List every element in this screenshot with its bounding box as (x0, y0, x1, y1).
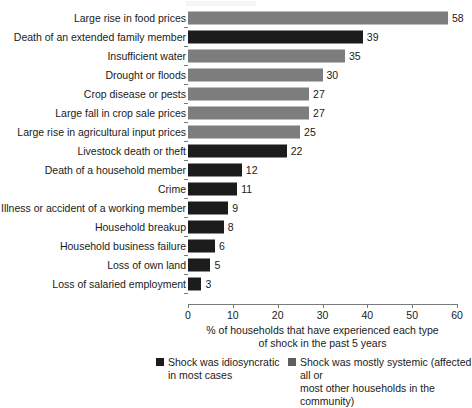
cropped-title-artifact (186, 1, 256, 6)
bar-track: 22 (188, 144, 457, 157)
bar-systemic[interactable] (188, 11, 448, 24)
bar-value-label: 30 (327, 69, 339, 81)
bar-track: 25 (188, 125, 457, 138)
bar-row: Household breakup8 (0, 217, 472, 236)
bar-value-label: 27 (313, 107, 325, 119)
x-axis-tick (412, 304, 413, 308)
category-label: Crop disease or pests (84, 88, 186, 100)
bar-row: Death of a household member12 (0, 160, 472, 179)
bar-idiosyncratic[interactable] (188, 220, 224, 233)
category-label: Large fall in crop sale prices (55, 107, 186, 119)
bar-idiosyncratic[interactable] (188, 30, 363, 43)
bar-track: 9 (188, 201, 457, 214)
bar-idiosyncratic[interactable] (188, 144, 287, 157)
plot-area: Large rise in food prices58Death of an e… (0, 8, 472, 304)
x-axis-tick-label: 60 (451, 309, 463, 321)
bar-value-label: 35 (349, 50, 361, 62)
bar-value-label: 9 (232, 202, 238, 214)
x-axis-tick (457, 304, 458, 308)
x-axis-tick (323, 304, 324, 308)
bar-track: 6 (188, 239, 457, 252)
category-label: Loss of own land (107, 259, 186, 271)
category-label: Large rise in agricultural input prices (17, 126, 186, 138)
legend-label-idiosyncratic: Shock was idiosyncratic in most cases (168, 356, 279, 382)
legend-item-idiosyncratic[interactable]: Shock was idiosyncratic in most cases (156, 356, 279, 382)
bar-row: Loss of own land5 (0, 255, 472, 274)
bar-track: 11 (188, 182, 457, 195)
bar-systemic[interactable] (188, 49, 345, 62)
bar-systemic[interactable] (188, 125, 300, 138)
bar-value-label: 3 (205, 278, 211, 290)
category-label: Crime (158, 183, 186, 195)
bar-systemic[interactable] (188, 68, 323, 81)
bar-value-label: 58 (452, 12, 464, 24)
x-axis-title-line-1: % of households that have experienced ea… (206, 324, 438, 336)
legend: Shock was idiosyncratic in most cases Sh… (0, 356, 472, 384)
x-axis-tick-label: 40 (361, 309, 373, 321)
bar-idiosyncratic[interactable] (188, 182, 237, 195)
category-label: Household breakup (95, 221, 186, 233)
x-axis-tick-label: 30 (317, 309, 329, 321)
bar-track: 8 (188, 220, 457, 233)
category-tick (184, 293, 188, 294)
bar-row: Livestock death or theft22 (0, 141, 472, 160)
bar-track: 5 (188, 258, 457, 271)
bar-value-label: 11 (241, 183, 252, 195)
bar-row: Crime11 (0, 179, 472, 198)
x-axis-tick-label: 10 (227, 309, 239, 321)
bar-value-label: 12 (246, 164, 258, 176)
bar-row: Illness or accident of a working member9 (0, 198, 472, 217)
legend-swatch-icon-idiosyncratic (156, 358, 164, 366)
category-label: Illness or accident of a working member (1, 202, 186, 214)
bar-row: Large fall in crop sale prices27 (0, 103, 472, 122)
x-axis-title: % of households that have experienced ea… (188, 324, 457, 350)
bar-idiosyncratic[interactable] (188, 163, 242, 176)
category-label: Livestock death or theft (77, 145, 186, 157)
bar-row: Death of an extended family member39 (0, 27, 472, 46)
x-axis-tick-label: 50 (406, 309, 418, 321)
category-label: Insufficient water (107, 50, 186, 62)
legend-label-systemic: Shock was mostly systemic (affected all … (300, 356, 472, 408)
legend-swatch-icon-systemic (288, 358, 296, 366)
bar-value-label: 6 (219, 240, 225, 252)
category-label: Loss of salaried employment (52, 278, 186, 290)
bar-row: Crop disease or pests27 (0, 84, 472, 103)
bar-value-label: 25 (304, 126, 316, 138)
bar-track: 27 (188, 87, 457, 100)
bar-value-label: 39 (367, 31, 379, 43)
bar-track: 58 (188, 11, 457, 24)
x-axis-tick (278, 304, 279, 308)
category-label: Household business failure (60, 240, 186, 252)
bar-row: Large rise in agricultural input prices2… (0, 122, 472, 141)
legend-item-systemic[interactable]: Shock was mostly systemic (affected all … (288, 356, 472, 408)
bar-value-label: 27 (313, 88, 325, 100)
bar-track: 3 (188, 277, 457, 290)
x-axis-title-line-2: of shock in the past 5 years (259, 337, 387, 349)
category-label: Death of an extended family member (14, 31, 186, 43)
category-label: Drought or floods (105, 69, 186, 81)
bar-track: 39 (188, 30, 457, 43)
x-axis-tick (188, 304, 189, 308)
bar-row: Drought or floods30 (0, 65, 472, 84)
x-axis-tick (233, 304, 234, 308)
bar-idiosyncratic[interactable] (188, 201, 228, 214)
bar-systemic[interactable] (188, 87, 309, 100)
bar-row: Insufficient water35 (0, 46, 472, 65)
bar-idiosyncratic[interactable] (188, 258, 210, 271)
x-axis-tick-label: 0 (185, 309, 191, 321)
x-axis-line: 0102030405060 (188, 304, 457, 305)
bar-track: 30 (188, 68, 457, 81)
bar-track: 12 (188, 163, 457, 176)
bar-systemic[interactable] (188, 106, 309, 119)
category-label: Large rise in food prices (74, 12, 186, 24)
x-axis-tick-label: 20 (272, 309, 284, 321)
bar-value-label: 8 (228, 221, 234, 233)
bar-idiosyncratic[interactable] (188, 277, 201, 290)
bar-track: 27 (188, 106, 457, 119)
bar-row: Loss of salaried employment3 (0, 274, 472, 293)
bar-idiosyncratic[interactable] (188, 239, 215, 252)
bar-row: Large rise in food prices58 (0, 8, 472, 27)
x-axis-tick (367, 304, 368, 308)
bar-track: 35 (188, 49, 457, 62)
